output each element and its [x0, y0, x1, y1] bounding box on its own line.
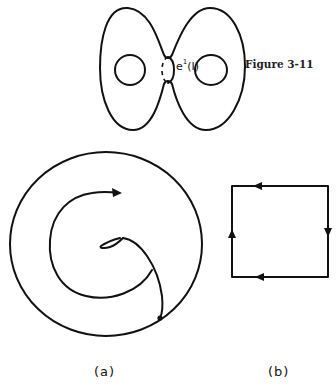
- label-superscript: 1: [183, 58, 187, 66]
- double-torus-outline: [100, 8, 245, 130]
- left-hole: [115, 55, 145, 85]
- arrow-right-down: [324, 228, 332, 237]
- oriented-square: [232, 186, 328, 277]
- panel-b-diagram: [228, 182, 332, 281]
- label-base: e: [176, 60, 183, 73]
- double-torus-diagram: [100, 8, 245, 130]
- panel-a-label: (a): [94, 364, 115, 379]
- neck-curve-back: [162, 57, 168, 83]
- label-argument: (I): [187, 60, 199, 73]
- inner-loop: [101, 238, 123, 248]
- boundary-point: [157, 315, 162, 320]
- panel-a-diagram: [10, 152, 202, 336]
- panel-b-label: (b): [268, 364, 289, 379]
- arrow-bottom-left: [255, 273, 264, 281]
- figure-caption: Figure 3-11: [245, 58, 314, 70]
- arrow-left-up: [228, 229, 236, 238]
- neck-curve-front: [168, 57, 174, 83]
- neck-curve-label: e1(I): [176, 60, 199, 72]
- right-hole: [195, 55, 227, 85]
- spiral-arrowhead: [112, 188, 122, 197]
- arrow-top-left: [253, 182, 262, 190]
- inner-curve-to-boundary: [123, 238, 162, 318]
